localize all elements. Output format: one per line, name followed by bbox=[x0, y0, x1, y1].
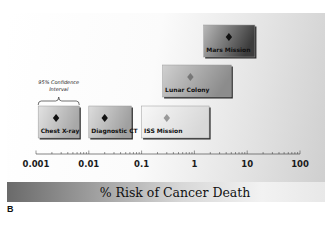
axis-title: % Risk of Cancer Death bbox=[100, 185, 251, 200]
x-axis: 0.0010.010.1110100 bbox=[23, 151, 309, 170]
tick-label: 1 bbox=[191, 159, 197, 169]
ci-annotation: 95% Confidence Interval bbox=[38, 79, 79, 105]
box-label: ISS Mission bbox=[144, 127, 182, 134]
tick-label: 100 bbox=[291, 159, 309, 169]
tick-label: 10 bbox=[241, 159, 253, 169]
box-label: Lunar Colony bbox=[165, 86, 209, 94]
range-box-chest-x-ray: Chest X-ray bbox=[38, 106, 81, 140]
range-box-iss-mission: ISS Mission bbox=[142, 106, 211, 140]
ci-annotation-line2: Interval bbox=[49, 86, 69, 92]
box-label: Chest X-ray bbox=[41, 127, 80, 135]
tick-label: 0.001 bbox=[23, 159, 50, 169]
panel-letter: B bbox=[7, 204, 14, 214]
range-box-mars-mission: Mars Mission bbox=[204, 25, 257, 59]
range-box-lunar-colony: Lunar Colony bbox=[163, 65, 233, 99]
box-label: Mars Mission bbox=[206, 46, 250, 53]
range-box-diagnostic-ct: Diagnostic CT bbox=[89, 106, 139, 140]
ci-annotation-line1: 95% Confidence bbox=[38, 79, 79, 85]
ci-bracket bbox=[38, 97, 79, 105]
tick-label: 0.1 bbox=[134, 159, 149, 169]
tick-label: 0.01 bbox=[78, 159, 99, 169]
axis-title-bar: % Risk of Cancer Death bbox=[7, 182, 325, 202]
box-label: Diagnostic CT bbox=[91, 127, 138, 135]
